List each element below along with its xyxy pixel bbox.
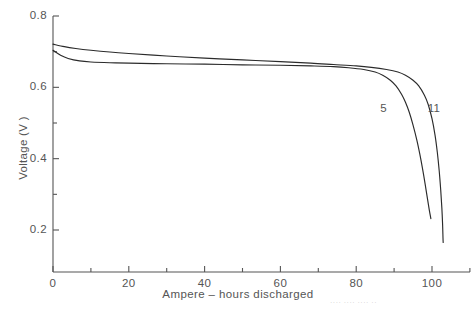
y-tick-label: 0.2 [5, 223, 47, 235]
y-tick-label: 0.4 [5, 152, 47, 164]
chart-plot-area [0, 0, 476, 309]
y-axis-title: Voltage (V ) [17, 103, 29, 193]
curve-label-11: 11 [428, 102, 441, 114]
y-tick-label: 0.8 [5, 9, 47, 21]
chart-figure: Voltage (V ) Ampere – hours discharged 0… [0, 0, 476, 309]
data-curves [53, 44, 443, 242]
curve-label-5: 5 [380, 102, 387, 114]
x-tick-label: 80 [336, 277, 376, 289]
x-tick-label: 60 [260, 277, 300, 289]
x-tick-label: 0 [33, 277, 73, 289]
axes [53, 16, 470, 272]
x-tick-label: 100 [412, 277, 452, 289]
curve-11 [53, 44, 443, 242]
curve-5 [53, 50, 431, 218]
axis-ticks [53, 16, 470, 272]
x-tick-label: 20 [109, 277, 149, 289]
y-tick-label: 0.6 [5, 80, 47, 92]
x-tick-label: 40 [185, 277, 225, 289]
footer-cutoff-text: ···· ···· ···· ·· [330, 299, 476, 308]
